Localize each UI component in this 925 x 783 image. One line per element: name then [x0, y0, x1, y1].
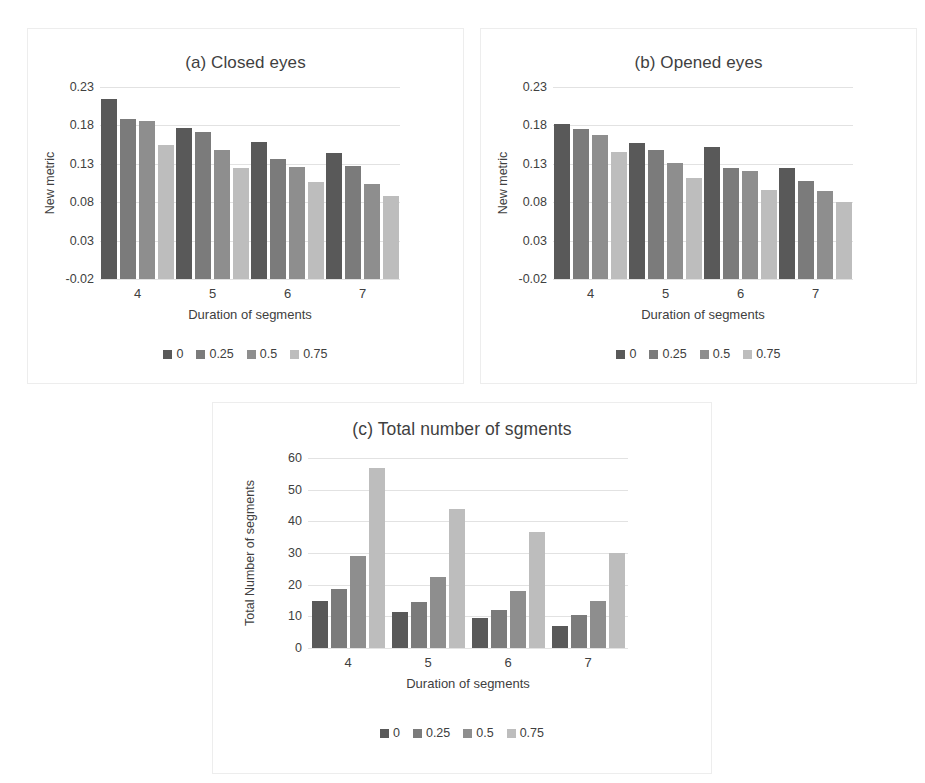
bar — [609, 553, 625, 648]
gridline — [100, 87, 400, 88]
gridline — [100, 279, 400, 280]
legend-swatch-icon — [196, 350, 205, 359]
legend-item[interactable]: 0.75 — [507, 726, 544, 740]
bar — [704, 147, 720, 279]
bar — [176, 128, 192, 279]
legend-label: 0.5 — [713, 347, 730, 361]
bar — [590, 601, 606, 649]
gridline — [308, 553, 628, 554]
bar — [350, 556, 366, 648]
bar — [667, 163, 683, 279]
y-axis-tick: 0.18 — [70, 118, 94, 132]
legend-item[interactable]: 0 — [163, 347, 183, 361]
plot-area-b: New metric -0.020.030.080.130.180.234567… — [553, 87, 853, 279]
legend-swatch-icon — [163, 350, 172, 359]
x-axis-tick: 7 — [359, 286, 366, 301]
legend-swatch-icon — [290, 350, 299, 359]
y-axis-tick: 50 — [288, 483, 302, 497]
legend-item[interactable]: 0.5 — [700, 347, 730, 361]
y-axis-tick: 10 — [288, 609, 302, 623]
y-axis-tick: 20 — [288, 578, 302, 592]
bar — [308, 182, 324, 279]
y-axis-tick: 0.08 — [70, 195, 94, 209]
legend-item[interactable]: 0.75 — [290, 347, 327, 361]
bar — [592, 135, 608, 279]
y-axis-tick: 0.08 — [523, 195, 547, 209]
bar — [648, 150, 664, 279]
legend-swatch-icon — [616, 350, 625, 359]
gridline — [553, 87, 853, 88]
legend-swatch-icon — [413, 729, 422, 738]
x-axis-tick: 4 — [587, 286, 594, 301]
bar — [331, 589, 347, 648]
legend-label: 0.25 — [426, 726, 450, 740]
x-axis-label-b: Duration of segments — [641, 307, 765, 322]
x-axis-tick: 7 — [584, 655, 591, 670]
legend-label: 0.25 — [662, 347, 686, 361]
legend-swatch-icon — [649, 350, 658, 359]
chart-panel-closed-eyes: (a) Closed eyes New metric -0.020.030.08… — [27, 28, 464, 384]
gridline — [553, 125, 853, 126]
bar — [491, 610, 507, 648]
bars-container-b: -0.020.030.080.130.180.234567 — [553, 87, 853, 279]
gridline — [553, 279, 853, 280]
bar — [817, 191, 833, 279]
y-axis-tick: 60 — [288, 451, 302, 465]
legend-swatch-icon — [507, 729, 516, 738]
legend-label: 0 — [393, 726, 400, 740]
y-axis-label-c: Total Number of segments — [243, 480, 257, 626]
legend-label: 0 — [629, 347, 636, 361]
y-axis-tick: 0.13 — [70, 157, 94, 171]
bar — [312, 601, 328, 649]
legend-item[interactable]: 0 — [616, 347, 636, 361]
bar — [573, 129, 589, 279]
x-axis-tick: 7 — [812, 286, 819, 301]
y-axis-tick: 0.03 — [523, 234, 547, 248]
legend-item[interactable]: 0.5 — [463, 726, 493, 740]
bar — [345, 166, 361, 279]
bar — [289, 167, 305, 279]
x-axis-label-a: Duration of segments — [188, 307, 312, 322]
chart-panel-total-segments: (c) Total number of sgments Total Number… — [212, 402, 712, 774]
bar — [251, 142, 267, 279]
legend-item[interactable]: 0.75 — [743, 347, 780, 361]
gridline — [308, 458, 628, 459]
legend-label: 0.75 — [303, 347, 327, 361]
bar — [449, 509, 465, 648]
bar — [742, 171, 758, 279]
legend-item[interactable]: 0.5 — [247, 347, 277, 361]
chart-panel-opened-eyes: (b) Opened eyes New metric -0.020.030.08… — [480, 28, 917, 384]
legend-b: 00.250.50.75 — [481, 347, 916, 361]
gridline — [308, 521, 628, 522]
x-axis-tick: 5 — [662, 286, 669, 301]
x-axis-tick: 6 — [284, 286, 291, 301]
bar — [364, 184, 380, 279]
bar — [430, 577, 446, 648]
legend-label: 0.25 — [209, 347, 233, 361]
bar — [139, 121, 155, 279]
legend-item[interactable]: 0.25 — [196, 347, 233, 361]
y-axis-tick: 0.23 — [70, 80, 94, 94]
chart-title-b: (b) Opened eyes — [481, 29, 916, 73]
bar — [529, 532, 545, 648]
bar — [214, 150, 230, 279]
bar — [195, 132, 211, 279]
bar — [629, 143, 645, 279]
gridline — [308, 490, 628, 491]
bar — [383, 196, 399, 279]
bar — [411, 602, 427, 648]
legend-swatch-icon — [380, 729, 389, 738]
legend-item[interactable]: 0.25 — [413, 726, 450, 740]
x-axis-tick: 6 — [737, 286, 744, 301]
bar — [472, 618, 488, 648]
bar — [761, 190, 777, 279]
legend-item[interactable]: 0 — [380, 726, 400, 740]
bar — [554, 124, 570, 279]
y-axis-label-a: New metric — [43, 152, 57, 215]
legend-label: 0.5 — [260, 347, 277, 361]
bar — [233, 168, 249, 279]
x-axis-tick: 4 — [344, 655, 351, 670]
y-axis-tick: 0.23 — [523, 80, 547, 94]
legend-item[interactable]: 0.25 — [649, 347, 686, 361]
bar — [120, 119, 136, 280]
